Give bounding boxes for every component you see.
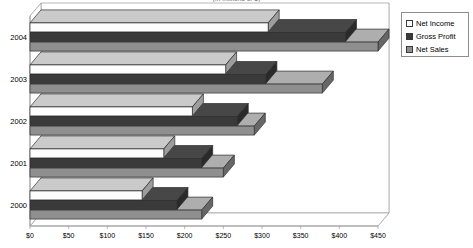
bar-front-face xyxy=(30,201,177,210)
bar-front-face xyxy=(30,210,202,219)
bar-top-face xyxy=(30,52,237,65)
bar-front-face xyxy=(30,23,268,32)
bar-top-face xyxy=(30,136,175,149)
y-axis-label-2004: 2004 xyxy=(2,33,27,42)
y-axis-label-2001: 2001 xyxy=(2,159,27,168)
bar-2000-net-income[interactable] xyxy=(30,178,153,200)
bar-front-face xyxy=(30,65,226,74)
legend-label-net-sales: Net Sales xyxy=(416,43,449,56)
x-axis-label-4: $200 xyxy=(177,232,193,239)
bar-front-face xyxy=(30,191,142,200)
y-axis-label-2003: 2003 xyxy=(2,75,27,84)
bar-front-face xyxy=(30,168,223,177)
bar-2002-net-income[interactable] xyxy=(30,94,203,116)
x-axis-label-0: $0 xyxy=(26,232,34,239)
legend-swatch-gross-profit xyxy=(406,33,413,40)
bar-2003-net-income[interactable] xyxy=(30,52,237,74)
y-axis-label-2002: 2002 xyxy=(2,117,27,126)
legend-label-gross-profit: Gross Profit xyxy=(416,30,456,43)
x-axis-label-2: $100 xyxy=(100,232,116,239)
x-axis-label-9: $450 xyxy=(370,232,386,239)
chart-legend: Net Income Gross Profit Net Sales xyxy=(401,12,469,57)
bar-top-face xyxy=(30,10,279,23)
bar-front-face xyxy=(30,42,378,51)
bar-2004-net-income[interactable] xyxy=(30,10,279,32)
bar-front-face xyxy=(30,84,322,93)
legend-item-net-sales[interactable]: Net Sales xyxy=(406,43,465,56)
x-axis-label-8: $400 xyxy=(332,232,348,239)
x-axis-label-3: $150 xyxy=(138,232,154,239)
legend-item-gross-profit[interactable]: Gross Profit xyxy=(406,30,465,43)
y-axis-label-2000: 2000 xyxy=(2,201,27,210)
legend-item-net-income[interactable]: Net Income xyxy=(406,17,465,30)
x-axis-label-1: $50 xyxy=(63,232,75,239)
bar-top-face xyxy=(30,94,203,107)
x-axis-label-5: $250 xyxy=(216,232,232,239)
bar-front-face xyxy=(30,107,192,116)
x-axis-label-7: $350 xyxy=(293,232,309,239)
legend-swatch-net-sales xyxy=(406,46,413,53)
bar-front-face xyxy=(30,75,266,84)
legend-label-net-income: Net Income xyxy=(416,17,454,30)
bar-2001-net-income[interactable] xyxy=(30,136,175,158)
bar-top-face xyxy=(30,178,153,191)
bar-front-face xyxy=(30,33,346,42)
bar-front-face xyxy=(30,126,254,135)
x-axis-label-6: $300 xyxy=(254,232,270,239)
legend-swatch-net-income xyxy=(406,20,413,27)
bar-front-face xyxy=(30,117,237,126)
bar-front-face xyxy=(30,149,164,158)
bar-front-face xyxy=(30,159,202,168)
chart-container: (in millions of $) $0$50$100$150$200$250… xyxy=(0,0,473,248)
